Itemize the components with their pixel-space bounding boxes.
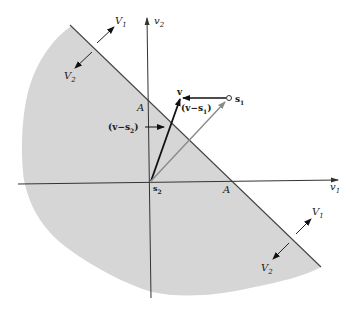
decision-region-diagram: v1 v2 A A s2 s1 v (v−s1) (v−s2) V1 V2 V1 [0,0,354,314]
intercept-a-v1: A [222,184,230,195]
label-v-minus-s1: (v−s1) [181,103,212,115]
region-v2-shading [22,26,321,295]
v1-label-upper: V1 [115,15,127,29]
v1-label-lower: V1 [312,206,324,220]
intercept-a-v2: A [136,102,144,113]
point-s1-label: s1 [235,94,244,106]
v2-axis-label: v2 [154,15,165,29]
arrow-to-v1-lower [296,219,311,234]
point-v-label: v [176,87,183,97]
point-s1 [227,96,232,101]
arrow-to-v1-upper [97,27,114,43]
v1-axis-label: v1 [330,181,340,195]
